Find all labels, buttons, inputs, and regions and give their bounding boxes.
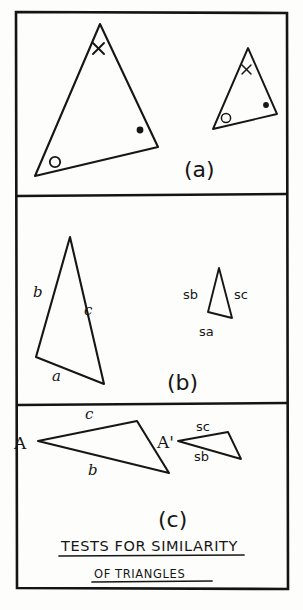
panel-b: b c a sb sc sa (b) bbox=[33, 237, 248, 395]
panel-a-large-triangle bbox=[35, 24, 158, 176]
panel-divider-ab bbox=[17, 194, 287, 196]
angle-mark-dot-icon bbox=[137, 127, 144, 134]
triangle-outline bbox=[38, 421, 169, 473]
side-label-a: a bbox=[52, 367, 61, 385]
side-label-c: c bbox=[84, 301, 93, 319]
panel-label-b: (b) bbox=[167, 370, 198, 395]
similarity-tests-figure: (a) b c a sb sc sa (b) bbox=[0, 0, 303, 610]
panel-label-a: (a) bbox=[184, 157, 215, 182]
side-label-sc: sc bbox=[234, 287, 248, 302]
vertex-label-A-prime: A' bbox=[156, 432, 174, 452]
caption-line-2: OF TRIANGLES bbox=[94, 567, 185, 581]
panel-b-small-triangle: sb sc sa bbox=[183, 268, 248, 339]
side-label-sb: sb bbox=[194, 449, 209, 464]
side-label-sc: sc bbox=[196, 419, 210, 434]
figure-caption: TESTS FOR SIMILARITY OF TRIANGLES bbox=[59, 538, 244, 582]
side-label-b: b bbox=[33, 283, 43, 301]
panel-c-small-triangle: A' sc sb bbox=[156, 419, 241, 464]
side-label-b: b bbox=[88, 461, 98, 479]
triangle-outline bbox=[208, 268, 232, 318]
panel-a: (a) bbox=[35, 24, 277, 182]
triangle-outline bbox=[36, 237, 104, 384]
panel-c-large-triangle: A c b bbox=[13, 405, 169, 479]
side-label-sa: sa bbox=[199, 324, 214, 339]
figure-page: (a) b c a sb sc sa (b) bbox=[0, 0, 303, 610]
panel-c: A c b A' sc sb (c) TESTS FOR SIMILARITY … bbox=[13, 405, 244, 582]
angle-mark-cross-icon bbox=[93, 43, 104, 54]
panel-a-small-triangle bbox=[213, 48, 277, 129]
vertex-label-A: A bbox=[13, 433, 27, 453]
side-label-sb: sb bbox=[183, 287, 198, 302]
caption-line-1: TESTS FOR SIMILARITY bbox=[60, 538, 238, 554]
triangle-outline bbox=[178, 432, 241, 459]
panel-label-c: (c) bbox=[158, 507, 187, 532]
angle-mark-dot-icon bbox=[263, 102, 269, 108]
panel-b-large-triangle: b c a bbox=[33, 237, 104, 385]
angle-mark-circle-icon bbox=[221, 113, 230, 122]
caption-underline-1 bbox=[59, 555, 244, 556]
angle-mark-circle-icon bbox=[50, 157, 60, 167]
caption-underline-2 bbox=[92, 581, 212, 582]
panel-divider-bc bbox=[17, 403, 287, 405]
angle-mark-cross-icon bbox=[242, 65, 251, 74]
triangle-outline bbox=[213, 48, 277, 129]
side-label-c: c bbox=[85, 405, 94, 423]
